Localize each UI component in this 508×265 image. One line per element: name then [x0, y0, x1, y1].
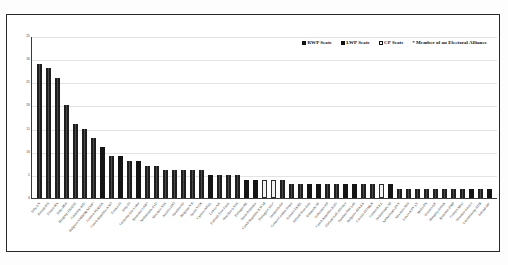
- bar-slot: [350, 37, 359, 198]
- y-axis-tick-label: 15: [26, 128, 30, 132]
- bar: [289, 184, 295, 198]
- bar: [280, 180, 286, 199]
- figure-container: RWP Seats LWP Seats CP Seats * Member of…: [0, 0, 508, 265]
- bar-slot: [107, 37, 116, 198]
- bar: [73, 124, 79, 198]
- bar: [163, 170, 169, 198]
- bar-slot: [332, 37, 341, 198]
- x-label-slot: Ireland-I4C: [485, 201, 494, 265]
- bar-slot: [359, 37, 368, 198]
- bar-slot: [278, 37, 287, 198]
- bar: [478, 189, 484, 198]
- bar: [352, 184, 358, 198]
- bar-slot: [215, 37, 224, 198]
- bar-slot: [116, 37, 125, 198]
- bar: [253, 180, 259, 199]
- bar-slot: [206, 37, 215, 198]
- bar: [271, 180, 277, 199]
- bar: [91, 138, 97, 198]
- bar: [127, 161, 133, 198]
- bar: [325, 184, 331, 198]
- bar-slot: [458, 37, 467, 198]
- bar-slot: [314, 37, 323, 198]
- bar: [145, 166, 151, 198]
- bar: [433, 189, 439, 198]
- bar-slot: [80, 37, 89, 198]
- bar: [343, 184, 349, 198]
- bar: [316, 184, 322, 198]
- bar-slot: [125, 37, 134, 198]
- bar-slot: [197, 37, 206, 198]
- bar-slot: [224, 37, 233, 198]
- bar-series: [32, 37, 497, 198]
- bar-slot: [98, 37, 107, 198]
- chart-frame: RWP Seats LWP Seats CP Seats * Member of…: [6, 14, 500, 252]
- bar-slot: [134, 37, 143, 198]
- bar-slot: [323, 37, 332, 198]
- bar: [244, 180, 250, 199]
- bar: [217, 175, 223, 198]
- bar-slot: [476, 37, 485, 198]
- bar-slot: [89, 37, 98, 198]
- bar: [487, 189, 493, 198]
- plot-area: 05101520253035: [31, 37, 497, 199]
- bar: [451, 189, 457, 198]
- bar: [469, 189, 475, 198]
- bar-slot: [422, 37, 431, 198]
- bar-slot: [152, 37, 161, 198]
- bar: [46, 68, 52, 198]
- bar: [190, 170, 196, 198]
- bar: [262, 180, 268, 199]
- bar-slot: [341, 37, 350, 198]
- bar: [226, 175, 232, 198]
- x-axis-labels: Italy-LNPoland-PiSFrance-RNItaly-M5SHung…: [31, 201, 497, 265]
- bar: [442, 189, 448, 198]
- bar-slot: [242, 37, 251, 198]
- bar: [334, 184, 340, 198]
- bar-slot: [386, 37, 395, 198]
- bar-slot: [179, 37, 188, 198]
- bar: [181, 170, 187, 198]
- y-axis-tick-label: 10: [26, 151, 30, 155]
- bar-slot: [287, 37, 296, 198]
- bar: [37, 64, 43, 198]
- bar-slot: [485, 37, 494, 198]
- bar-slot: [296, 37, 305, 198]
- bar-slot: [143, 37, 152, 198]
- bar: [388, 184, 394, 198]
- bar-slot: [53, 37, 62, 198]
- bar-slot: [269, 37, 278, 198]
- bar: [55, 78, 61, 198]
- bar: [406, 189, 412, 198]
- bar: [235, 175, 241, 198]
- bar: [397, 189, 403, 198]
- bar: [361, 184, 367, 198]
- bar-slot: [440, 37, 449, 198]
- bar: [460, 189, 466, 198]
- bar-slot: [62, 37, 71, 198]
- bar-slot: [188, 37, 197, 198]
- bar: [82, 129, 88, 198]
- y-axis-tick-label: 5: [28, 174, 30, 178]
- bar-slot: [44, 37, 53, 198]
- y-axis-tick-label: 0: [28, 197, 30, 201]
- bar-slot: [170, 37, 179, 198]
- bar-slot: [260, 37, 269, 198]
- bar: [307, 184, 313, 198]
- bar-slot: [377, 37, 386, 198]
- bar-slot: [395, 37, 404, 198]
- bar-slot: [431, 37, 440, 198]
- bar: [172, 170, 178, 198]
- bar: [100, 147, 106, 198]
- bar-slot: [305, 37, 314, 198]
- bar: [199, 170, 205, 198]
- bar: [154, 166, 160, 198]
- y-axis-tick-label: 30: [26, 58, 30, 62]
- bar: [208, 175, 214, 198]
- y-axis-tick-label: 35: [26, 35, 30, 39]
- bar: [298, 184, 304, 198]
- bar: [136, 161, 142, 198]
- bar-slot: [467, 37, 476, 198]
- bar-slot: [233, 37, 242, 198]
- bar-slot: [35, 37, 44, 198]
